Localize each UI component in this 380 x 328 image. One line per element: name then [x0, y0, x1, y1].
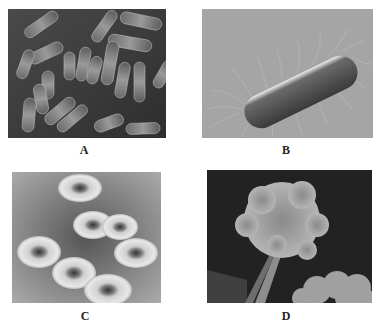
panel-label-b: B — [276, 143, 296, 158]
panel-label-c: C — [75, 309, 95, 324]
micrograph-d — [207, 170, 372, 303]
flagellated-bacterium-image — [202, 9, 373, 138]
panel-label-d: D — [276, 309, 296, 324]
micrograph-b — [202, 9, 373, 138]
colonies-image — [12, 172, 161, 303]
micrograph-c — [12, 172, 161, 303]
panel-label-a: A — [74, 143, 94, 158]
mold-conidiophore-image — [207, 170, 372, 303]
micrograph-a — [8, 9, 166, 138]
rod-bacteria-image — [8, 9, 166, 138]
